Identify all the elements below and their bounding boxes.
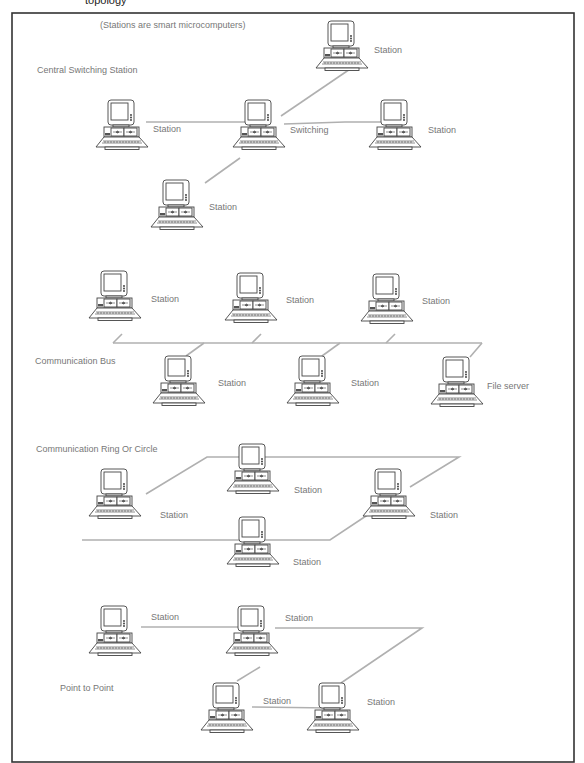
section-title: Central Switching Station [37, 65, 138, 75]
station-label: Station [367, 697, 395, 707]
station-label: Station [153, 124, 181, 134]
microcomputer-icon [227, 444, 279, 494]
microcomputer-icon [96, 100, 148, 150]
microcomputer-icon [233, 100, 285, 150]
section-title: Communication Bus [35, 356, 116, 366]
section-star: StationStationSwitchingStationStationCen… [37, 21, 456, 230]
connection-line [113, 334, 122, 343]
topology-sections: StationStationSwitchingStationStationCen… [35, 21, 529, 733]
switching-label: Switching [290, 125, 329, 135]
station-label: Station [293, 557, 321, 567]
microcomputer-icon [431, 357, 483, 407]
section-title: Communication Ring Or Circle [36, 444, 158, 454]
microcomputer-icon [369, 100, 421, 150]
station-label: Station [430, 510, 458, 520]
station-label: Station [151, 294, 179, 304]
station-label: Station [422, 296, 450, 306]
connection-line [284, 122, 393, 124]
stations-note: (Stations are smart microcomputers) [100, 20, 246, 30]
connection-line [281, 65, 356, 116]
section-title: Point to Point [60, 683, 114, 693]
connection-line [386, 334, 395, 343]
station-label: Station [218, 378, 246, 388]
connection-line [322, 343, 340, 356]
section-bus: StationStationStationStationStationFile … [35, 271, 529, 407]
microcomputer-icon [287, 356, 339, 406]
station-label: Station [263, 696, 291, 706]
microcomputer-icon [361, 274, 413, 324]
station-label: Station [294, 485, 322, 495]
station-label: Station [151, 612, 179, 622]
microcomputer-icon [89, 469, 141, 519]
section-ring: StationStationStationStationCommunicatio… [36, 444, 459, 567]
microcomputer-icon [153, 356, 205, 406]
microcomputer-icon [201, 683, 253, 733]
station-label: Station [374, 45, 402, 55]
microcomputer-icon [89, 606, 141, 656]
microcomputer-icon [151, 180, 203, 230]
connection-line [237, 667, 260, 681]
station-label: Station [428, 125, 456, 135]
connection-line [186, 343, 204, 356]
file-server-label: File server [487, 381, 529, 391]
microcomputer-icon [316, 21, 368, 71]
station-label: Station [160, 510, 188, 520]
microcomputer-icon [227, 517, 279, 567]
station-label: Station [286, 295, 314, 305]
station-label: Station [285, 613, 313, 623]
connection-line [252, 707, 330, 708]
station-label: Station [351, 378, 379, 388]
microcomputer-icon [363, 469, 415, 519]
network-topology-diagram: (Stations are smart microcomputers) Stat… [0, 0, 584, 763]
station-label: Station [209, 202, 237, 212]
connection-line [275, 628, 422, 683]
connection-line [470, 343, 482, 357]
connection-line [205, 158, 240, 183]
microcomputer-icon [226, 606, 278, 656]
connection-line [252, 334, 261, 343]
microcomputer-icon [89, 271, 141, 321]
microcomputer-icon [225, 273, 277, 323]
section-p2p: StationStationStationStationPoint to Poi… [60, 606, 422, 733]
